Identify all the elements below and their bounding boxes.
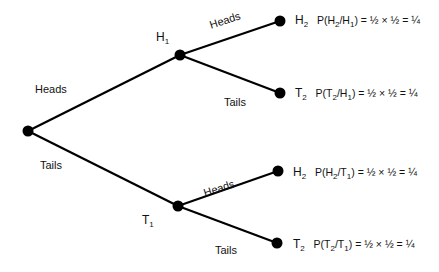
- node-root: [23, 126, 34, 137]
- outcome-t2-given-t1: T2 P(T2/T1) = ½ × ½ = ¼: [293, 238, 414, 253]
- tree-edges: [0, 0, 439, 272]
- edge-label-root-heads: Heads: [35, 84, 67, 95]
- edge-t1-t2: [178, 206, 277, 243]
- outcome-h2-given-h1: H2 P(H2/H1) = ½ × ½ = ¼: [295, 14, 420, 29]
- probability-tree-diagram: Heads Tails Heads Tails Heads Tails H1 T…: [0, 0, 439, 272]
- edge-h1-h2: [180, 21, 280, 55]
- node-label-t1: T1: [142, 214, 154, 229]
- edge-h1-t2: [180, 55, 280, 93]
- node-h2-top: [275, 16, 286, 27]
- edge-label-root-tails: Tails: [40, 160, 62, 171]
- outcome-h2-given-t1: H2 P(H2/T1) = ½ × ½ = ¼: [293, 166, 417, 181]
- node-h1: [175, 50, 186, 61]
- node-label-h1: H1: [156, 31, 169, 46]
- node-t2-bottom: [272, 238, 283, 249]
- edge-label-t1-tails: Tails: [215, 245, 237, 256]
- node-t2-top: [275, 88, 286, 99]
- edge-label-h1-tails: Tails: [224, 97, 246, 108]
- outcome-t2-given-h1: T2 P(T2/H1) = ½ × ½ = ¼: [295, 87, 418, 102]
- node-h2-bottom: [273, 166, 284, 177]
- node-t1: [173, 201, 184, 212]
